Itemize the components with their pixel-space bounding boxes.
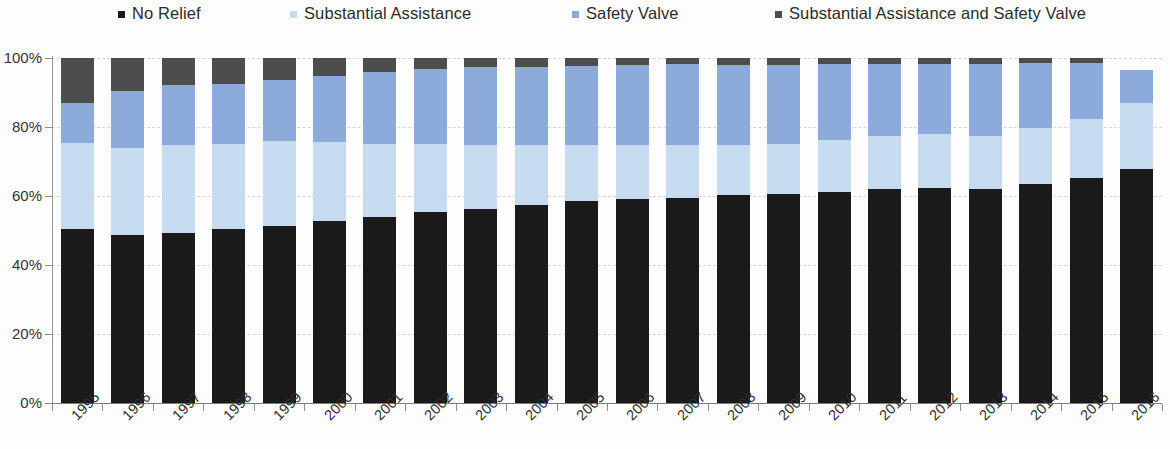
bar-segment[interactable]: [111, 58, 144, 91]
bar-stack[interactable]: [969, 58, 1002, 403]
bar-segment[interactable]: [1070, 63, 1103, 120]
bar-segment[interactable]: [464, 58, 497, 67]
bar-segment[interactable]: [515, 67, 548, 145]
bar-segment[interactable]: [414, 58, 447, 69]
bar-segment[interactable]: [918, 188, 951, 403]
bar-stack[interactable]: [1019, 58, 1052, 403]
bar-segment[interactable]: [616, 145, 649, 198]
bar-segment[interactable]: [363, 144, 396, 216]
bar-segment[interactable]: [565, 145, 598, 201]
bar-segment[interactable]: [1019, 128, 1052, 185]
bar-stack[interactable]: [263, 58, 296, 403]
bar-segment[interactable]: [717, 65, 750, 145]
bar-segment[interactable]: [61, 103, 94, 142]
bar-segment[interactable]: [464, 145, 497, 209]
bar-segment[interactable]: [111, 91, 144, 148]
legend-item[interactable]: Safety Valve: [572, 4, 679, 22]
bar-segment[interactable]: [414, 212, 447, 403]
bar-segment[interactable]: [969, 189, 1002, 403]
bar-segment[interactable]: [263, 58, 296, 80]
bar-segment[interactable]: [717, 195, 750, 403]
bar-segment[interactable]: [767, 58, 800, 65]
bar-stack[interactable]: [868, 58, 901, 403]
bar-segment[interactable]: [464, 67, 497, 145]
bar-segment[interactable]: [313, 142, 346, 221]
bar-segment[interactable]: [1019, 58, 1052, 63]
bar-segment[interactable]: [868, 64, 901, 137]
bar-stack[interactable]: [717, 58, 750, 403]
bar-segment[interactable]: [162, 58, 195, 85]
bar-segment[interactable]: [1019, 63, 1052, 128]
bar-segment[interactable]: [162, 233, 195, 403]
bar-segment[interactable]: [1070, 58, 1103, 63]
bar-segment[interactable]: [515, 145, 548, 205]
bar-segment[interactable]: [1120, 169, 1153, 403]
bar-segment[interactable]: [61, 143, 94, 230]
bar-segment[interactable]: [565, 201, 598, 403]
bar-segment[interactable]: [414, 69, 447, 144]
bar-segment[interactable]: [818, 192, 851, 403]
bar-segment[interactable]: [515, 205, 548, 403]
bar-segment[interactable]: [666, 198, 699, 403]
bar-segment[interactable]: [1070, 178, 1103, 403]
bar-segment[interactable]: [313, 221, 346, 403]
bar-stack[interactable]: [61, 58, 94, 403]
bar-segment[interactable]: [565, 66, 598, 145]
bar-segment[interactable]: [212, 58, 245, 84]
bar-segment[interactable]: [767, 144, 800, 194]
bar-segment[interactable]: [1070, 119, 1103, 178]
bar-segment[interactable]: [868, 189, 901, 403]
bar-segment[interactable]: [666, 58, 699, 64]
bar-segment[interactable]: [111, 235, 144, 403]
bar-segment[interactable]: [818, 58, 851, 64]
bar-segment[interactable]: [313, 58, 346, 76]
bar-segment[interactable]: [767, 65, 800, 144]
bar-segment[interactable]: [868, 136, 901, 188]
bar-segment[interactable]: [818, 140, 851, 191]
bar-segment[interactable]: [414, 144, 447, 212]
bar-stack[interactable]: [414, 58, 447, 403]
bar-segment[interactable]: [969, 64, 1002, 136]
bar-stack[interactable]: [515, 58, 548, 403]
bar-segment[interactable]: [666, 64, 699, 145]
bar-segment[interactable]: [263, 80, 296, 141]
bar-stack[interactable]: [565, 58, 598, 403]
bar-segment[interactable]: [363, 72, 396, 144]
bar-segment[interactable]: [1019, 184, 1052, 403]
bar-segment[interactable]: [565, 58, 598, 66]
bar-segment[interactable]: [515, 58, 548, 67]
bar-stack[interactable]: [666, 58, 699, 403]
bar-segment[interactable]: [363, 217, 396, 403]
bar-stack[interactable]: [1120, 70, 1153, 403]
bar-segment[interactable]: [918, 134, 951, 188]
bar-segment[interactable]: [162, 85, 195, 145]
bar-segment[interactable]: [969, 136, 1002, 189]
bar-segment[interactable]: [61, 229, 94, 403]
bar-stack[interactable]: [212, 58, 245, 403]
bar-segment[interactable]: [717, 145, 750, 196]
bar-stack[interactable]: [767, 58, 800, 403]
bar-segment[interactable]: [111, 148, 144, 236]
bar-segment[interactable]: [918, 58, 951, 64]
bar-stack[interactable]: [162, 58, 195, 403]
bar-segment[interactable]: [666, 145, 699, 198]
legend-item[interactable]: Substantial Assistance: [290, 4, 471, 22]
bar-stack[interactable]: [111, 58, 144, 403]
bar-segment[interactable]: [868, 58, 901, 64]
bar-segment[interactable]: [212, 84, 245, 145]
bar-stack[interactable]: [363, 58, 396, 403]
bar-stack[interactable]: [1070, 58, 1103, 403]
bar-stack[interactable]: [464, 58, 497, 403]
bar-segment[interactable]: [313, 76, 346, 142]
bar-segment[interactable]: [61, 58, 94, 103]
legend-item[interactable]: Substantial Assistance and Safety Valve: [775, 4, 1086, 22]
bar-segment[interactable]: [717, 58, 750, 65]
bar-segment[interactable]: [212, 229, 245, 403]
bar-segment[interactable]: [616, 58, 649, 65]
bar-segment[interactable]: [162, 145, 195, 233]
bar-segment[interactable]: [767, 194, 800, 403]
bar-segment[interactable]: [1120, 103, 1153, 169]
bar-stack[interactable]: [918, 58, 951, 403]
bar-segment[interactable]: [616, 65, 649, 145]
bar-segment[interactable]: [818, 64, 851, 141]
